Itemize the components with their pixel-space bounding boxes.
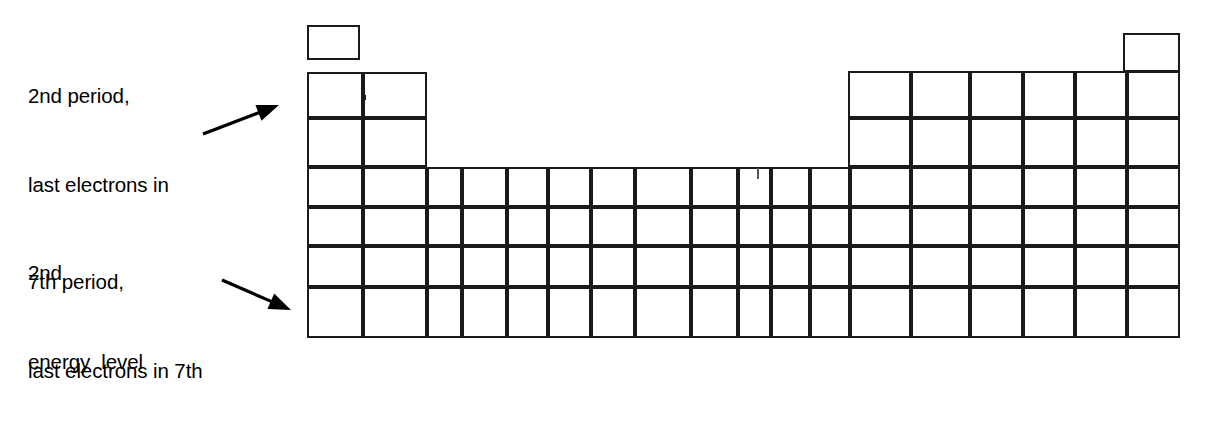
cell-r6-c5[interactable] — [507, 246, 548, 287]
cell-r6-c2[interactable] — [363, 246, 427, 287]
cell-r6-c7[interactable] — [591, 246, 635, 287]
cell-r4-c5[interactable] — [507, 167, 548, 207]
cell-r4-c2[interactable] — [363, 167, 427, 207]
cell-r3-c16[interactable] — [1023, 118, 1075, 167]
cell-he[interactable] — [1123, 33, 1180, 72]
cell-r4-c6[interactable] — [548, 167, 591, 207]
cell-r7-c10[interactable] — [738, 287, 771, 338]
cell-r7-c8[interactable] — [635, 287, 691, 338]
cell-r5-c3[interactable] — [427, 207, 462, 246]
cell-r4-c16[interactable] — [1023, 167, 1075, 207]
cell-r5-c17[interactable] — [1075, 207, 1127, 246]
cell-r2-c15[interactable] — [970, 71, 1023, 118]
periodic-table-diagram: 2nd period, last electrons in 2nd energy… — [0, 0, 1211, 441]
cell-r5-c12[interactable] — [810, 207, 850, 246]
cell-h[interactable] — [307, 25, 360, 60]
scan-tick-mark — [757, 168, 759, 179]
cell-r4-c18[interactable] — [1127, 167, 1180, 207]
cell-r5-c2[interactable] — [363, 207, 427, 246]
cell-r4-c17[interactable] — [1075, 167, 1127, 207]
cell-r5-c8[interactable] — [635, 207, 691, 246]
cell-r2-c2[interactable] — [363, 72, 427, 118]
cell-r7-c5[interactable] — [507, 287, 548, 338]
cell-r5-c13[interactable] — [850, 207, 911, 246]
cell-r2-c13[interactable] — [848, 71, 911, 118]
cell-r6-c11[interactable] — [771, 246, 810, 287]
cell-r4-c8[interactable] — [635, 167, 691, 207]
cell-r2-c1[interactable] — [307, 72, 363, 118]
cell-r7-c2[interactable] — [363, 287, 427, 338]
cell-r6-c10[interactable] — [738, 246, 771, 287]
cell-r7-c16[interactable] — [1023, 287, 1075, 338]
cell-r7-c4[interactable] — [462, 287, 507, 338]
cell-r6-c12[interactable] — [810, 246, 850, 287]
cell-r4-c12[interactable] — [810, 167, 850, 207]
cell-r2-c16[interactable] — [1023, 71, 1075, 118]
cell-r7-c9[interactable] — [691, 287, 738, 338]
cell-r2-c17[interactable] — [1075, 71, 1127, 118]
cell-r5-c10[interactable] — [738, 207, 771, 246]
cell-r4-c13[interactable] — [850, 167, 911, 207]
cell-r6-c4[interactable] — [462, 246, 507, 287]
cell-r6-c6[interactable] — [548, 246, 591, 287]
cell-r6-c17[interactable] — [1075, 246, 1127, 287]
scan-dot-artifact — [362, 95, 366, 100]
cell-r5-c11[interactable] — [771, 207, 810, 246]
cell-r5-c5[interactable] — [507, 207, 548, 246]
cell-r6-c13[interactable] — [850, 246, 911, 287]
cell-r2-c14[interactable] — [911, 71, 970, 118]
cell-r3-c1[interactable] — [307, 118, 363, 167]
cell-r4-c10[interactable] — [738, 167, 771, 207]
cell-r6-c1[interactable] — [307, 246, 363, 287]
cell-r5-c1[interactable] — [307, 207, 363, 246]
cell-r5-c16[interactable] — [1023, 207, 1075, 246]
cell-r7-c15[interactable] — [970, 287, 1023, 338]
cell-r7-c11[interactable] — [771, 287, 810, 338]
cell-r7-c1[interactable] — [307, 287, 363, 338]
cell-r3-c13[interactable] — [848, 118, 911, 167]
cell-r4-c15[interactable] — [970, 167, 1023, 207]
cell-r6-c14[interactable] — [911, 246, 970, 287]
cell-r7-c13[interactable] — [850, 287, 911, 338]
cell-r3-c15[interactable] — [970, 118, 1023, 167]
cell-r7-c6[interactable] — [548, 287, 591, 338]
cell-r7-c18[interactable] — [1127, 287, 1180, 338]
cell-r5-c15[interactable] — [970, 207, 1023, 246]
cell-r6-c8[interactable] — [635, 246, 691, 287]
cell-r7-c14[interactable] — [911, 287, 970, 338]
cell-r4-c4[interactable] — [462, 167, 507, 207]
cell-r5-c18[interactable] — [1127, 207, 1180, 246]
cell-r6-c18[interactable] — [1127, 246, 1180, 287]
cell-r5-c7[interactable] — [591, 207, 635, 246]
periodic-table-grid — [0, 0, 1211, 441]
cell-r7-c12[interactable] — [810, 287, 850, 338]
cell-r3-c14[interactable] — [911, 118, 970, 167]
cell-r5-c6[interactable] — [548, 207, 591, 246]
cell-r4-c1[interactable] — [307, 167, 363, 207]
cell-r6-c9[interactable] — [691, 246, 738, 287]
cell-r3-c18[interactable] — [1127, 118, 1180, 167]
cell-r6-c15[interactable] — [970, 246, 1023, 287]
cell-r5-c14[interactable] — [911, 207, 970, 246]
cell-r4-c14[interactable] — [911, 167, 970, 207]
cell-r4-c7[interactable] — [591, 167, 635, 207]
cell-r6-c3[interactable] — [427, 246, 462, 287]
cell-r6-c16[interactable] — [1023, 246, 1075, 287]
cell-r7-c17[interactable] — [1075, 287, 1127, 338]
cell-r3-c17[interactable] — [1075, 118, 1127, 167]
cell-r7-c7[interactable] — [591, 287, 635, 338]
cell-r4-c9[interactable] — [691, 167, 738, 207]
cell-r7-c3[interactable] — [427, 287, 462, 338]
cell-r3-c2[interactable] — [363, 118, 427, 167]
cell-r2-c18[interactable] — [1127, 71, 1180, 118]
cell-r5-c4[interactable] — [462, 207, 507, 246]
cell-r4-c3[interactable] — [427, 167, 462, 207]
cell-r4-c11[interactable] — [771, 167, 810, 207]
cell-r5-c9[interactable] — [691, 207, 738, 246]
